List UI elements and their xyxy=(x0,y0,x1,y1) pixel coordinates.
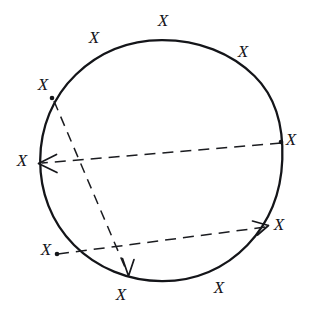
arrowhead-bottom xyxy=(123,259,135,277)
x-marker-bottom-right: X xyxy=(213,278,225,297)
x-marker-top-right: X xyxy=(237,42,249,61)
vector-right-to-left-line xyxy=(42,143,281,163)
dots-group xyxy=(50,96,284,257)
x-marker-lower-right: X xyxy=(273,215,285,234)
x-marker-upper-left: X xyxy=(37,75,49,94)
x-marker-lower-left: X xyxy=(40,240,52,259)
x-marker-right: X xyxy=(285,130,297,149)
figure-canvas: X X X X X X X X X X xyxy=(0,0,314,316)
x-marker-top-left: X xyxy=(88,28,100,47)
dot-upper-left xyxy=(50,96,55,101)
dot-lower-left xyxy=(55,252,60,257)
x-marker-left: X xyxy=(16,151,28,170)
dot-right xyxy=(279,140,284,145)
vector-lowerleft-to-lowerright-line xyxy=(58,227,266,254)
x-markers-group: X X X X X X X X X X xyxy=(16,11,297,304)
vector-upperleft-to-bottom-line xyxy=(54,101,127,272)
circle-diagram: X X X X X X X X X X xyxy=(0,0,314,316)
x-marker-bottom: X xyxy=(115,285,127,304)
x-marker-top: X xyxy=(157,11,169,30)
